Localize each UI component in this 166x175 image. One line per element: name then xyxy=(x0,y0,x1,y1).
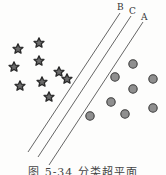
circle-point-icon xyxy=(121,110,129,118)
star-icon xyxy=(34,38,44,47)
circle-point-icon xyxy=(111,73,119,81)
circle-point-icon xyxy=(129,60,137,68)
circle-point-icon xyxy=(149,104,157,112)
circle-point-icon xyxy=(149,75,157,83)
circle-point-icon xyxy=(86,112,94,120)
star-icon xyxy=(34,56,44,65)
line-label-C: C xyxy=(129,6,136,16)
star-icon xyxy=(37,77,47,86)
svm-hyperplane-diagram: BCA xyxy=(0,0,166,175)
hyperplane-line-C xyxy=(38,16,131,157)
star-icon xyxy=(54,67,64,76)
star-icon xyxy=(15,81,25,90)
star-icon xyxy=(62,74,72,83)
hyperplane-line-A xyxy=(49,22,143,165)
line-label-A: A xyxy=(140,12,148,22)
star-icon xyxy=(9,62,19,71)
circle-point-icon xyxy=(129,85,137,93)
star-icon xyxy=(13,44,23,53)
circle-point-icon xyxy=(107,98,115,106)
line-label-B: B xyxy=(117,2,124,12)
star-icon xyxy=(44,92,54,101)
figure-caption: 图 5-34 分类超平面 xyxy=(0,163,166,175)
